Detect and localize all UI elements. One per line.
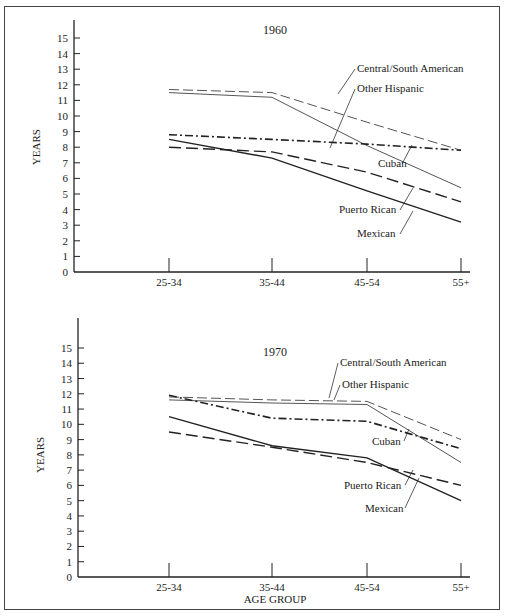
- y-tick-label: 14: [61, 357, 73, 369]
- x-tick-label: 25-34: [156, 276, 182, 288]
- y-tick-label: 13: [57, 63, 69, 75]
- y-tick-label: 6: [67, 479, 73, 491]
- y-tick-label: 8: [63, 141, 69, 153]
- leader-line: [334, 385, 340, 400]
- leader-line: [404, 429, 409, 441]
- y-tick-label: 12: [61, 388, 72, 400]
- chart-title: 1960: [263, 23, 287, 37]
- y-tick-label: 7: [67, 464, 73, 476]
- y-tick-label: 1: [63, 250, 69, 262]
- y-tick-label: 2: [67, 540, 73, 552]
- series-label: Puerto Rican: [339, 203, 397, 215]
- y-tick-label: 0: [67, 571, 73, 583]
- y-axis-label: YEARS: [34, 437, 46, 473]
- y-tick-label: 8: [67, 449, 73, 461]
- y-tick-label: 10: [61, 418, 73, 430]
- series-line-puerto-rican: [169, 147, 461, 202]
- series-label: Other Hispanic: [357, 82, 424, 94]
- series-label: Other Hispanic: [342, 378, 409, 390]
- x-tick-label: 35-44: [259, 276, 285, 288]
- y-tick-label: 15: [61, 342, 73, 354]
- y-tick-label: 4: [63, 204, 69, 216]
- series-line-mexican: [169, 139, 461, 222]
- series-line-puerto-rican: [169, 432, 461, 485]
- y-tick-label: 15: [57, 32, 69, 44]
- y-tick-label: 0: [63, 266, 69, 278]
- leader-line: [405, 478, 419, 508]
- leader-line: [330, 89, 355, 148]
- y-tick-label: 10: [57, 110, 69, 122]
- y-axis-label: YEARS: [30, 129, 42, 165]
- y-tick-label: 5: [67, 495, 73, 507]
- x-tick-label: 45-54: [354, 276, 380, 288]
- x-axis-label: AGE GROUP: [244, 593, 307, 605]
- charts: 0123456789101112131415YEARS25-3435-4445-…: [0, 0, 506, 615]
- series-label: Mexican: [357, 227, 396, 239]
- y-tick-label: 7: [63, 157, 69, 169]
- y-tick-label: 4: [67, 510, 73, 522]
- y-tick-label: 11: [57, 94, 68, 106]
- chart-title: 1970: [263, 345, 287, 359]
- x-tick-label: 45-54: [354, 581, 380, 593]
- y-tick-label: 1: [67, 556, 73, 568]
- x-tick-label: 35-44: [259, 581, 285, 593]
- y-tick-label: 6: [63, 172, 69, 184]
- series-label: Mexican: [365, 502, 404, 514]
- series-label: Puerto Rican: [344, 479, 402, 491]
- y-tick-label: 9: [63, 126, 69, 138]
- x-tick-label: 55+: [452, 276, 469, 288]
- series-line-mexican: [169, 417, 461, 501]
- leader-line: [400, 188, 413, 210]
- y-tick-label: 3: [67, 525, 73, 537]
- leader-line: [338, 69, 355, 94]
- y-tick-label: 3: [63, 219, 69, 231]
- series-line-other-hispanic: [169, 400, 461, 463]
- series-label: Cuban: [372, 435, 401, 447]
- x-tick-label: 25-34: [156, 581, 182, 593]
- y-tick-label: 14: [57, 48, 69, 60]
- y-tick-label: 13: [61, 373, 73, 385]
- y-tick-label: 5: [63, 188, 69, 200]
- series-label: Central/South American: [357, 62, 464, 74]
- y-tick-label: 2: [63, 235, 69, 247]
- y-tick-label: 11: [61, 403, 72, 415]
- x-tick-label: 55+: [452, 581, 469, 593]
- leader-line: [400, 211, 413, 234]
- series-label: Central/South American: [340, 356, 447, 368]
- y-tick-label: 9: [67, 434, 73, 446]
- series-label: Cuban: [378, 157, 407, 169]
- y-tick-label: 12: [57, 79, 68, 91]
